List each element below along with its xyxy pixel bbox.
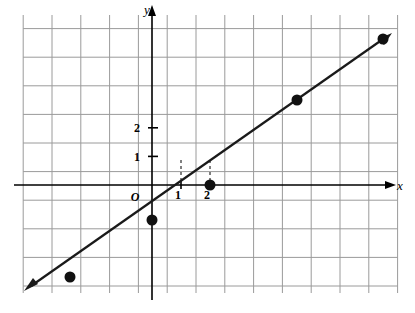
x-tick-label-1: 1 xyxy=(175,188,181,202)
graph-figure: x y O 1 2 1 2 xyxy=(0,0,415,313)
y-tick-label-1: 1 xyxy=(134,150,140,164)
origin-label: O xyxy=(131,190,140,204)
y-axis-label: y xyxy=(142,2,150,17)
y-tick-label-2: 2 xyxy=(134,121,140,135)
x-tick-label-2: 2 xyxy=(204,188,210,202)
chart-background xyxy=(0,0,415,313)
data-point xyxy=(292,95,303,106)
coordinate-plane-svg: x y O 1 2 1 2 xyxy=(0,0,415,313)
data-point xyxy=(147,215,158,226)
data-point xyxy=(378,34,389,45)
data-point xyxy=(65,272,76,283)
x-axis-label: x xyxy=(396,178,403,193)
